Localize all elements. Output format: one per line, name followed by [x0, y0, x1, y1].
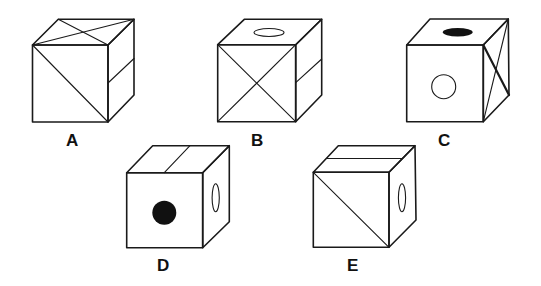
cube-d-front-filled-dot: [152, 201, 176, 225]
cube-d[interactable]: D: [127, 146, 230, 275]
cube-a-top-diagonal-2: [33, 19, 135, 45]
cube-b-label: B: [251, 131, 263, 150]
cube-d-top-split: [164, 146, 190, 173]
cube-e-right-hollow-ellipse: [398, 184, 405, 212]
cube-e-front-diagonal: [313, 172, 389, 247]
cube-d-top-face: [127, 146, 230, 173]
cube-a-label: A: [66, 131, 78, 150]
cube-d-right-face: [203, 146, 230, 248]
cube-c-right-diagonal-2: [483, 19, 508, 122]
cube-b-top-hollow-ellipse: [254, 29, 284, 37]
cube-a-right-split: [108, 59, 134, 84]
cube-e[interactable]: E: [313, 146, 416, 275]
cube-d-label: D: [157, 256, 169, 275]
cube-a[interactable]: A: [33, 19, 135, 150]
cube-c-label: C: [438, 131, 450, 150]
cube-b-right-split: [296, 59, 322, 83]
cube-c-front-hollow-circle: [432, 75, 456, 99]
cube-e-right-face: [389, 146, 416, 248]
cube-a-front-diagonal: [33, 45, 109, 122]
cube-d-right-hollow-ellipse: [212, 184, 219, 212]
cube-e-label: E: [347, 256, 358, 275]
cube-c-top-filled-ellipse: [443, 28, 473, 36]
cube-c-front-face: [407, 45, 484, 122]
cube-c[interactable]: C: [407, 19, 509, 150]
cube-options-diagram: A B C D E: [0, 0, 541, 286]
cube-b[interactable]: B: [218, 19, 322, 150]
cube-b-top-face: [218, 19, 322, 44]
